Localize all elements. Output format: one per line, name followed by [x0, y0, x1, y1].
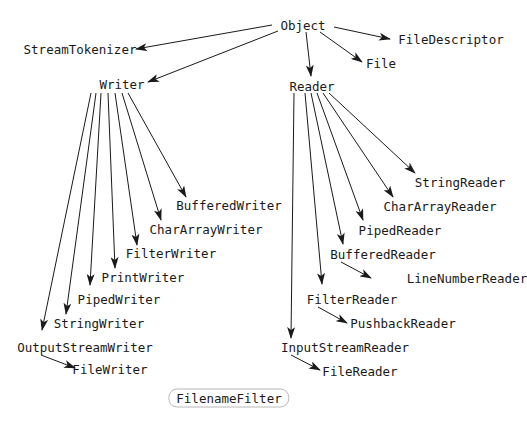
class-node-reader: Reader: [289, 79, 334, 94]
class-node-file-reader: FileReader: [322, 364, 397, 379]
class-node-filter-writer: FilterWriter: [126, 246, 216, 261]
class-node-print-writer: PrintWriter: [102, 270, 185, 285]
class-node-input-stream-reader: InputStreamReader: [281, 340, 409, 355]
class-node-line-number-reader: LineNumberReader: [407, 271, 527, 286]
class-node-object: Object: [280, 18, 325, 33]
inheritance-arrow: [66, 93, 96, 314]
inheritance-arrow: [318, 307, 347, 323]
inheritance-arrow: [148, 31, 278, 82]
class-node-file-descriptor: FileDescriptor: [398, 32, 503, 47]
inheritance-arrow: [341, 262, 371, 278]
class-node-char-array-reader: CharArrayReader: [384, 199, 497, 214]
class-node-char-array-writer: CharArrayWriter: [150, 222, 263, 237]
inheritance-arrow: [128, 93, 186, 197]
class-node-writer: Writer: [99, 77, 144, 92]
class-node-pushback-reader: PushbackReader: [350, 316, 455, 331]
class-node-buffered-writer: BufferedWriter: [176, 198, 281, 213]
inheritance-arrow: [41, 355, 75, 368]
class-node-piped-writer: PipedWriter: [78, 292, 161, 307]
class-node-filename-filter: FilenameFilter: [168, 389, 289, 408]
class-node-file: File: [366, 56, 396, 71]
inheritance-arrow: [136, 25, 272, 49]
class-node-buffered-reader: BufferedReader: [330, 247, 435, 262]
inheritance-arrow: [122, 93, 161, 220]
inheritance-arrow: [115, 93, 137, 245]
inheritance-arrow: [317, 93, 363, 220]
inheritance-arrow: [320, 32, 362, 62]
class-node-file-writer: FileWriter: [72, 362, 147, 377]
inheritance-arrow: [108, 93, 115, 268]
inheritance-arrow: [291, 355, 320, 370]
class-node-string-writer: StringWriter: [54, 316, 144, 331]
class-node-piped-reader: PipedReader: [359, 223, 442, 238]
class-node-output-stream-writer: OutputStreamWriter: [17, 340, 152, 355]
inheritance-arrow: [305, 93, 322, 284]
class-node-string-reader: StringReader: [415, 175, 505, 190]
inheritance-arrow: [291, 93, 294, 338]
class-node-stream-tokenizer: StreamTokenizer: [24, 42, 137, 57]
class-node-filter-reader: FilterReader: [307, 292, 397, 307]
inheritance-arrow: [334, 27, 390, 39]
inheritance-arrow: [306, 32, 311, 76]
inheritance-arrow: [323, 93, 393, 197]
